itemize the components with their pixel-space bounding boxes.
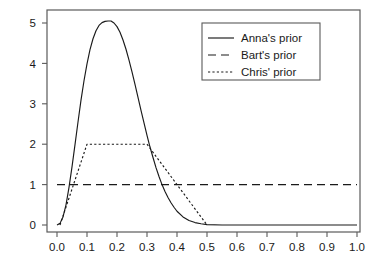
x-axis-ticks (57, 232, 357, 237)
legend-label: Bart's prior (241, 49, 296, 61)
y-axis-ticks (42, 23, 47, 225)
y-axis-tick-labels: 012345 (30, 17, 37, 231)
y-tick-label: 1 (30, 179, 36, 191)
x-tick-label: 0.2 (109, 241, 125, 253)
legend: Anna's priorBart's priorChris' prior (202, 23, 320, 80)
x-tick-label: 1.0 (349, 241, 365, 253)
x-tick-label: 0.6 (229, 241, 245, 253)
x-tick-label: 0.9 (319, 241, 335, 253)
y-tick-label: 2 (30, 138, 36, 150)
x-tick-label: 0.7 (259, 241, 275, 253)
x-tick-label: 0.8 (289, 241, 305, 253)
x-tick-label: 0.4 (169, 241, 186, 253)
y-tick-label: 5 (30, 17, 36, 29)
x-tick-label: 0.5 (199, 241, 215, 253)
x-tick-label: 0.0 (49, 241, 65, 253)
plot-canvas: 0.00.10.20.30.40.50.60.70.80.91.0 012345… (0, 0, 390, 273)
y-tick-label: 0 (30, 219, 36, 231)
legend-label: Anna's prior (241, 32, 302, 44)
y-tick-label: 3 (30, 98, 36, 110)
x-tick-label: 0.3 (139, 241, 155, 253)
x-tick-label: 0.1 (79, 241, 95, 253)
chart-figure: 0.00.10.20.30.40.50.60.70.80.91.0 012345… (0, 0, 390, 273)
y-tick-label: 4 (30, 58, 37, 70)
x-axis-tick-labels: 0.00.10.20.30.40.50.60.70.80.91.0 (49, 241, 365, 253)
series-line (60, 144, 207, 225)
legend-label: Chris' prior (241, 66, 296, 78)
